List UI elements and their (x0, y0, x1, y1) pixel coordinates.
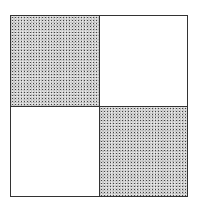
cell-top-right-blank (100, 16, 187, 107)
cell-top-left-stippled (11, 16, 100, 107)
cell-bottom-right-stippled (100, 107, 187, 196)
cell-bottom-left-blank (11, 107, 100, 196)
checkerboard-grid (10, 15, 188, 197)
